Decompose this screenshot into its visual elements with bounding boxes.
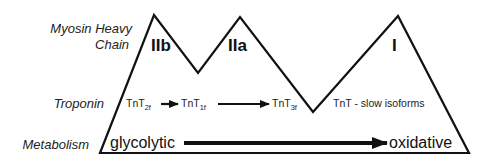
glycolytic-label: glycolytic	[110, 134, 175, 151]
fiber-type-iia-label: IIa	[228, 36, 247, 55]
myosin-heavy-chain-label-line2: Chain	[95, 37, 129, 52]
oxidative-label: oxidative	[389, 134, 452, 151]
tnt-slow-isoforms-label: TnT - slow isoforms	[333, 97, 424, 109]
muscle-fiber-diagram: Myosin Heavy Chain Troponin Metabolism I…	[0, 0, 484, 160]
tnt-3f-label: TnT3f	[272, 97, 298, 112]
myosin-heavy-chain-label-line1: Myosin Heavy	[50, 21, 133, 36]
tnt-2f-label: TnT2f	[126, 97, 152, 112]
troponin-label: Troponin	[54, 96, 104, 111]
tnt-1f-label: TnT1f	[181, 97, 207, 112]
fiber-type-i-label: I	[392, 36, 397, 55]
metabolism-label: Metabolism	[23, 137, 90, 152]
fiber-type-iib-label: IIb	[151, 36, 171, 55]
